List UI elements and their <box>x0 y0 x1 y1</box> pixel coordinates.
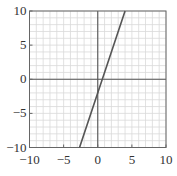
y-tick-label: −10 <box>6 140 26 155</box>
y-tick-label: 0 <box>20 71 27 86</box>
y-tick-label: 10 <box>14 3 27 18</box>
line-chart: −10−50510 1050−5−10 <box>0 0 177 176</box>
x-tick-label: −5 <box>57 152 71 167</box>
y-tick-label: 5 <box>20 37 27 52</box>
x-tick-label: 0 <box>95 152 102 167</box>
y-axis-ticks: 1050−5−10 <box>6 3 32 155</box>
x-tick-label: 10 <box>160 152 173 167</box>
y-tick-label: −5 <box>13 105 27 120</box>
x-tick-label: 5 <box>129 152 136 167</box>
